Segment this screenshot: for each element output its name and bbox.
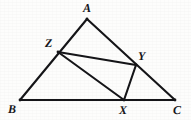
vertex-label-c: C bbox=[173, 104, 181, 116]
diagram-canvas bbox=[0, 0, 191, 120]
vertex-label-x: X bbox=[119, 104, 127, 116]
vertex-point-c bbox=[174, 99, 177, 102]
segment-xy bbox=[124, 65, 136, 100]
vertex-point-y bbox=[135, 64, 138, 67]
geometry-figure: ABCZYX bbox=[0, 0, 191, 120]
vertex-label-y: Y bbox=[138, 50, 145, 62]
segment-group bbox=[20, 19, 175, 100]
segment-ab bbox=[20, 19, 87, 100]
vertex-point-a bbox=[86, 18, 89, 21]
segment-zx bbox=[58, 52, 124, 100]
vertex-label-z: Z bbox=[45, 37, 52, 49]
vertex-point-b bbox=[19, 99, 22, 102]
vertex-point-z bbox=[57, 51, 60, 54]
vertex-label-a: A bbox=[83, 2, 91, 14]
vertex-point-x bbox=[123, 99, 126, 102]
vertex-label-b: B bbox=[8, 103, 16, 115]
